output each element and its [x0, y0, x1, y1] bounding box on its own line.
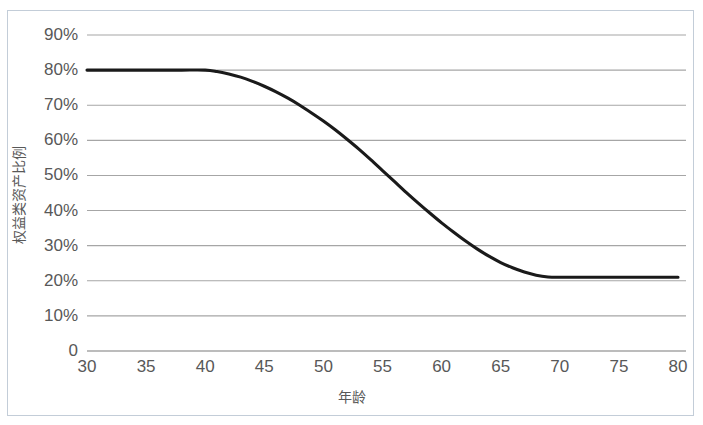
y-axis-tick-label: 70% — [44, 96, 78, 113]
x-axis-tick-label: 35 — [121, 358, 171, 375]
x-axis-tick-label: 40 — [180, 358, 230, 375]
y-axis-tick-label: 0 — [69, 342, 78, 359]
y-axis-tick-label: 50% — [44, 166, 78, 183]
x-axis-title: 年龄 — [0, 386, 703, 406]
y-axis-tick-label: 60% — [44, 131, 78, 148]
chart-container: 90%80%70%60%50%40%30%20%10%0 30354045505… — [0, 0, 703, 425]
x-axis-tick-label: 45 — [239, 358, 289, 375]
y-axis-title: 权益类资产比例 — [8, 115, 28, 275]
y-axis-tick-label: 30% — [44, 237, 78, 254]
x-axis-tick-label: 80 — [653, 358, 703, 375]
x-axis-tick-label: 60 — [417, 358, 467, 375]
y-axis-tick-label: 40% — [44, 202, 78, 219]
x-axis-tick-label: 30 — [62, 358, 112, 375]
x-axis-tick-label: 70 — [535, 358, 585, 375]
y-axis-tick-label: 20% — [44, 272, 78, 289]
gridlines-group — [87, 35, 686, 351]
y-axis-tick-label: 90% — [44, 26, 78, 43]
x-axis-tick-label: 65 — [476, 358, 526, 375]
y-axis-tick-label: 80% — [44, 61, 78, 78]
x-axis-tick-label: 50 — [298, 358, 348, 375]
x-axis-tick-label: 55 — [358, 358, 408, 375]
x-axis-tick-label: 75 — [594, 358, 644, 375]
y-axis-tick-label: 10% — [44, 307, 78, 324]
